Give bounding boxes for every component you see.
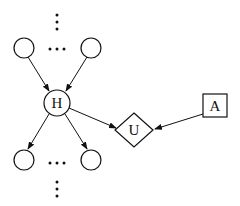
- edge-a-to-u: [155, 114, 203, 129]
- edge-h-to-u: [69, 108, 116, 128]
- parent-right-node[interactable]: [81, 38, 101, 58]
- h-node-label: H: [52, 95, 63, 111]
- edge-h-to-child-right: [65, 114, 87, 149]
- child-left-node[interactable]: [14, 150, 34, 170]
- top-vertical-ellipsis: [56, 14, 59, 31]
- u-node-label: U: [129, 122, 140, 138]
- edge-h-to-child-left: [28, 114, 49, 149]
- a-node-label: A: [210, 98, 221, 114]
- parents-horizontal-ellipsis: [49, 48, 66, 51]
- children-horizontal-ellipsis: [49, 162, 66, 165]
- diagram-svg: H U A: [0, 0, 240, 206]
- edge-parent-right-to-h: [66, 57, 87, 91]
- parent-left-node[interactable]: [14, 38, 34, 58]
- bottom-vertical-ellipsis: [56, 181, 59, 198]
- edge-parent-left-to-h: [28, 57, 49, 91]
- child-right-node[interactable]: [81, 150, 101, 170]
- influence-diagram: H U A: [0, 0, 240, 206]
